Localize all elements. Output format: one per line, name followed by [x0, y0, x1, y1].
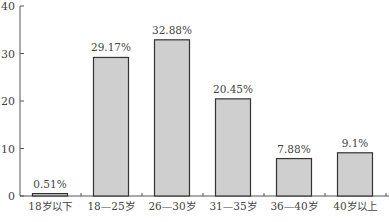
bar-group: 32.88%26—30岁	[148, 24, 195, 212]
x-category-label: 31—35岁	[209, 200, 256, 212]
bar-group: 0.51%18岁以下	[28, 178, 71, 212]
bar-group: 29.17%18—25岁	[87, 41, 134, 212]
bar	[338, 153, 373, 196]
y-axis: 010203040	[1, 0, 24, 203]
x-category-label: 36—40岁	[270, 200, 317, 212]
bar-value-label: 9.1%	[342, 137, 369, 149]
bar	[94, 57, 129, 196]
bar-value-label: 7.88%	[277, 143, 310, 155]
bar-chart: 010203040 0.51%18岁以下29.17%18—25岁32.88%26…	[0, 0, 389, 222]
bar-value-label: 29.17%	[91, 41, 131, 53]
x-category-label: 18—25岁	[87, 200, 134, 212]
bar-value-label: 32.88%	[152, 24, 192, 36]
bar-group: 9.1%40岁以上	[333, 137, 376, 212]
bar	[155, 40, 190, 196]
bar-group: 7.88%36—40岁	[270, 143, 317, 212]
y-tick-label: 10	[1, 143, 15, 156]
bar	[216, 99, 251, 196]
y-tick-label: 0	[8, 190, 15, 203]
x-category-label: 26—30岁	[148, 200, 195, 212]
y-tick-label: 40	[1, 0, 15, 13]
x-category-label: 18岁以下	[28, 200, 71, 212]
x-category-label: 40岁以上	[333, 200, 376, 212]
bar-value-label: 20.45%	[213, 83, 253, 95]
y-tick-label: 30	[1, 48, 15, 61]
x-axis	[20, 193, 389, 196]
bar	[33, 194, 68, 196]
bar-value-label: 0.51%	[33, 178, 66, 190]
bars: 0.51%18岁以下29.17%18—25岁32.88%26—30岁20.45%…	[28, 24, 376, 212]
y-tick-label: 20	[1, 95, 15, 108]
bar	[277, 159, 312, 196]
bar-group: 20.45%31—35岁	[209, 83, 256, 212]
